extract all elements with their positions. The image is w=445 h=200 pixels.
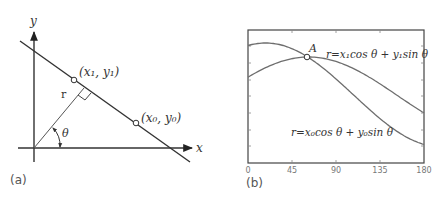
svg-text:180: 180: [416, 166, 431, 175]
y-axis-label: y: [29, 14, 37, 28]
x-axis-label: x: [196, 141, 203, 155]
point0-label: (x₀, y₀): [141, 111, 181, 125]
svg-text:135: 135: [372, 166, 387, 175]
svg-text:90: 90: [331, 166, 341, 175]
panel-b: A r=x₁cos θ + y₁sin θ r=x₀cos θ + y₀sin …: [245, 30, 431, 190]
point-x0-y0: [133, 120, 139, 126]
point1-label: (x₁, y₁): [79, 65, 119, 79]
panel-b-label: (b): [246, 176, 263, 190]
hough-line: [20, 41, 190, 162]
point-x1-y1: [71, 77, 77, 83]
intersection-label: A: [308, 42, 317, 55]
curve1-label: r=x₁cos θ + y₁sin θ: [326, 48, 429, 60]
right-angle-marker: [78, 93, 91, 100]
svg-text:45: 45: [287, 166, 297, 175]
theta-label: θ: [62, 127, 69, 140]
curve0-label: r=x₀cos θ + y₀sin θ: [291, 126, 394, 138]
panel-a: y x r θ (x₁, y₁) (x₀, y₀) (a): [10, 14, 203, 187]
intersection-point-a: [304, 54, 310, 60]
panel-a-label: (a): [10, 173, 27, 187]
curve-x0-y0: [248, 57, 424, 113]
theta-arc: [53, 128, 60, 147]
x-tick-labels: 0 45 90 135 180: [245, 166, 431, 175]
svg-text:0: 0: [245, 166, 250, 175]
r-label: r: [61, 88, 67, 101]
figure: y x r θ (x₁, y₁) (x₀, y₀) (a): [0, 0, 445, 200]
